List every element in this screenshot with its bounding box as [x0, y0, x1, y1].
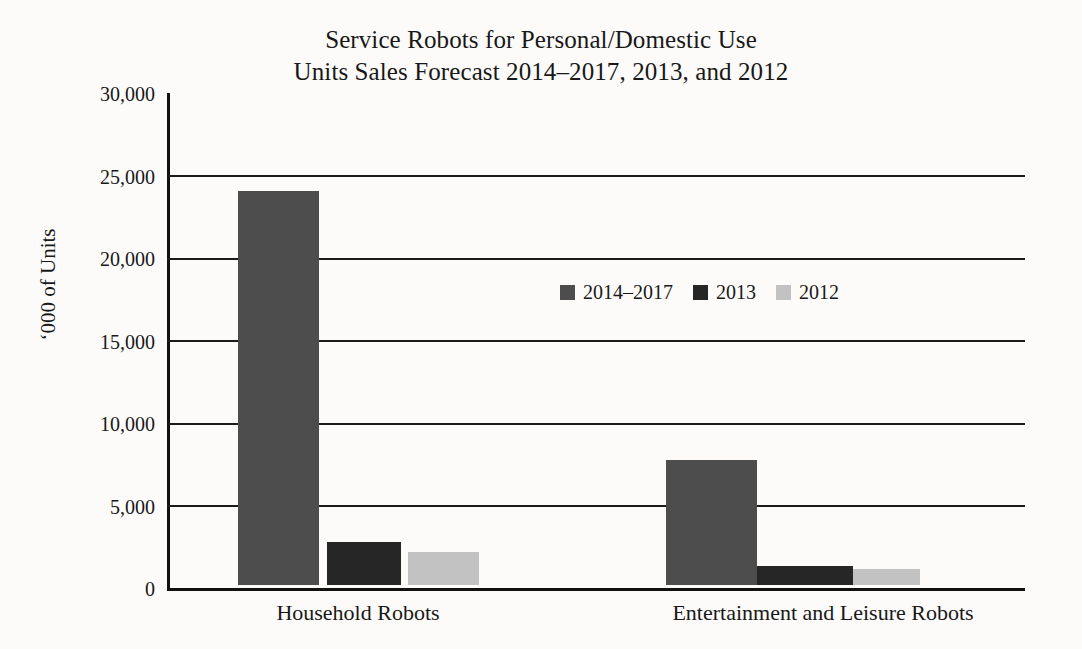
x-category-label-household: Household Robots	[198, 600, 518, 626]
chart-title-line-1: Service Robots for Personal/Domestic Use	[0, 24, 1082, 56]
bar-household-2014-2017[interactable]	[238, 191, 319, 585]
legend-entry-2014-2017[interactable]: 2014–2017	[560, 281, 673, 304]
bar-entertainment-2013[interactable]	[757, 566, 853, 585]
bar-entertainment-2014-2017[interactable]	[666, 460, 757, 585]
y-axis-title: ‘000 of Units	[36, 185, 61, 385]
legend-label-2014-2017: 2014–2017	[583, 281, 673, 304]
legend-label-2012: 2012	[799, 281, 839, 304]
legend-entry-2013[interactable]: 2013	[693, 281, 756, 304]
legend-swatch-2013	[693, 285, 708, 300]
y-tick-label-15000: 15,000	[45, 331, 155, 354]
legend-entry-2012[interactable]: 2012	[776, 281, 839, 304]
legend-swatch-2012	[776, 285, 791, 300]
bar-household-2012[interactable]	[408, 552, 479, 585]
legend-swatch-2014-2017	[560, 285, 575, 300]
bar-household-2013[interactable]	[327, 542, 401, 585]
y-tick-label-0: 0	[45, 578, 155, 601]
y-tick-label-10000: 10,000	[45, 413, 155, 436]
y-tick-label-25000: 25,000	[45, 166, 155, 189]
x-category-label-entertainment: Entertainment and Leisure Robots	[623, 600, 1023, 626]
bar-entertainment-2012[interactable]	[853, 569, 920, 586]
chart-title-line-2: Units Sales Forecast 2014–2017, 2013, an…	[0, 56, 1082, 88]
chart-figure: Service Robots for Personal/Domestic Use…	[0, 0, 1082, 649]
gridline-25000	[167, 175, 1025, 177]
plot-area	[167, 93, 1025, 588]
legend-label-2013: 2013	[716, 281, 756, 304]
y-tick-label-30000: 30,000	[45, 83, 155, 106]
chart-title: Service Robots for Personal/Domestic Use…	[0, 24, 1082, 88]
x-axis-line	[167, 588, 1025, 591]
y-tick-label-5000: 5,000	[45, 496, 155, 519]
chart-legend: 2014–2017 2013 2012	[560, 281, 839, 304]
y-tick-label-20000: 20,000	[45, 248, 155, 271]
